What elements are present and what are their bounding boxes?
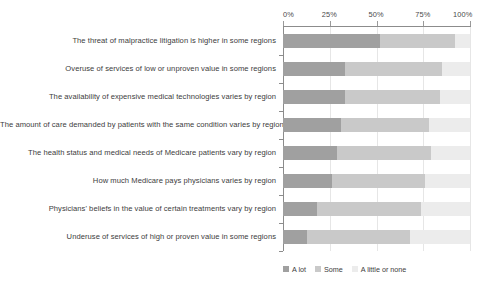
bar-segment [283,146,337,160]
chart-row [283,139,470,167]
x-axis-tick-label: 0% [283,10,294,19]
bar-segment [307,230,410,244]
category-label: The availability of expensive medical te… [0,83,276,111]
chart-row [283,195,470,223]
legend-swatch-icon [283,266,289,272]
bar-segment [317,202,422,216]
y-axis-tick-mark [279,251,283,252]
stacked-bar [283,230,470,244]
legend-swatch-icon [315,266,321,272]
category-label: The health status and medical needs of M… [0,139,276,167]
chart-row [283,55,470,83]
legend-item[interactable]: A lot [283,265,306,274]
bar-segment [429,118,470,132]
bar-segment [345,90,440,104]
category-label: The amount of care demanded by patients … [0,111,276,139]
stacked-bar [283,90,470,104]
stacked-bar [283,118,470,132]
bar-segment [337,146,431,160]
x-axis-tick-label: 50% [369,10,384,19]
legend-label: A lot [292,265,306,274]
legend-item[interactable]: Some [315,265,343,274]
legend-swatch-icon [352,266,358,272]
stacked-bar-chart: 0%25%50%75%100% The threat of malpractic… [0,0,493,294]
x-axis-tick-label: 25% [322,10,337,19]
category-labels: The threat of malpractice litigation is … [0,27,283,251]
stacked-bar [283,146,470,160]
bar-segment [440,90,470,104]
bar-segment [345,62,442,76]
stacked-bar [283,202,470,216]
bar-segment [341,118,429,132]
legend-label: A little or none [361,265,407,274]
plot-area [283,27,470,251]
bar-segment [283,174,332,188]
bar-segment [410,230,470,244]
bar-segment [442,62,470,76]
chart-legend: A lotSomeA little or none [283,262,483,276]
chart-row [283,223,470,251]
gridline [470,27,471,251]
chart-row [283,27,470,55]
bar-segment [283,34,380,48]
bar-segment [332,174,426,188]
chart-row [283,111,470,139]
category-label: Overuse of services of low or unproven v… [0,55,276,83]
category-label: Physicians' beliefs in the value of cert… [0,195,276,223]
bar-segment [431,146,470,160]
x-axis-tick-label: 75% [415,10,430,19]
bar-segment [283,90,345,104]
chart-row [283,83,470,111]
category-label: How much Medicare pays physicians varies… [0,167,276,195]
stacked-bar [283,62,470,76]
bar-segment [425,174,470,188]
x-axis-tick-label: 100% [453,10,472,19]
category-label: Underuse of services of high or proven v… [0,223,276,251]
chart-row [283,167,470,195]
legend-item[interactable]: A little or none [352,265,407,274]
bar-segment [283,202,317,216]
stacked-bar [283,174,470,188]
category-label: The threat of malpractice litigation is … [0,27,276,55]
bar-segment [283,118,341,132]
legend-label: Some [324,265,343,274]
stacked-bar [283,34,470,48]
bar-segment [283,230,307,244]
bar-segment [380,34,455,48]
bar-segment [455,34,470,48]
bar-segment [421,202,470,216]
bar-segment [283,62,345,76]
